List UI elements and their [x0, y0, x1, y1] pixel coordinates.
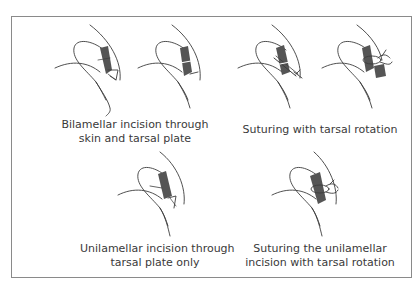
caption-suturing-unilamellar: Suturing the unilamellar incision with t… — [240, 242, 400, 270]
caption-unilamellar-incision: Unilamellar incision through tarsal plat… — [80, 242, 230, 270]
drawing-suturing-unilamellar — [272, 152, 338, 236]
drawing-unilamellar — [118, 152, 184, 236]
caption-suturing-tarsal-rotation: Suturing with tarsal rotation — [240, 123, 400, 137]
caption-line: Unilamellar incision through — [80, 242, 230, 256]
drawing-suturing-1 — [238, 25, 302, 108]
caption-line: skin and tarsal plate — [60, 132, 210, 146]
caption-line: Bilamellar incision through — [60, 118, 210, 132]
drawing-bilamellar-1 — [55, 25, 120, 116]
caption-bilamellar-incision: Bilamellar incision through skin and tar… — [60, 118, 210, 146]
caption-line: tarsal plate only — [80, 256, 230, 270]
drawing-bilamellar-2 — [138, 25, 200, 108]
caption-line: incision with tarsal rotation — [240, 256, 400, 270]
drawing-suturing-2 — [322, 25, 392, 108]
caption-line: Suturing the unilamellar — [240, 242, 400, 256]
caption-line: Suturing with tarsal rotation — [240, 123, 400, 137]
